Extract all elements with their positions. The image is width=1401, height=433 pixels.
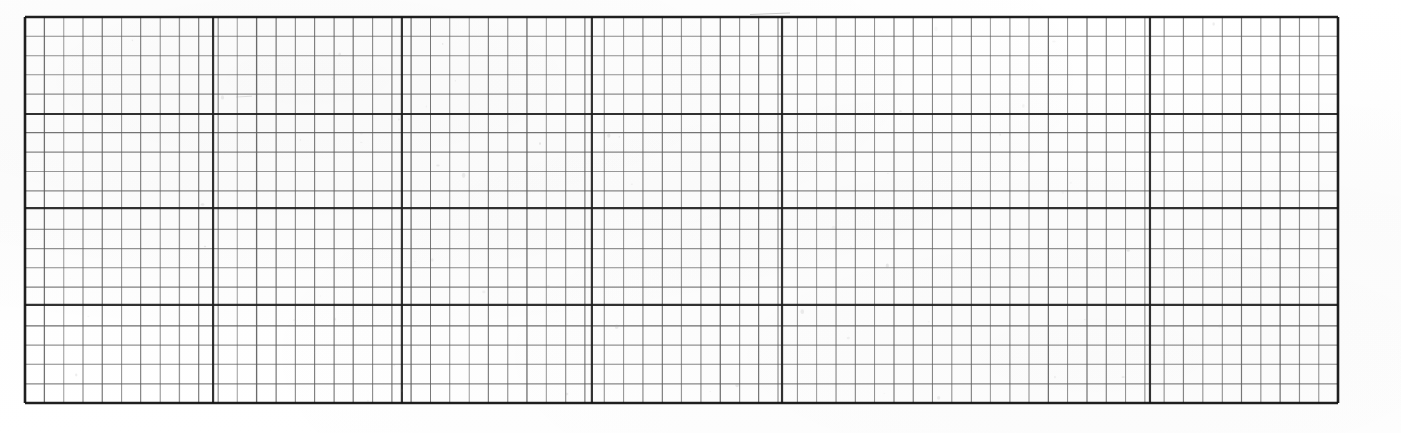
scan-speckle — [539, 142, 541, 145]
scan-speckle — [414, 261, 415, 262]
scan-speckle — [204, 246, 206, 248]
scan-speckle — [1128, 77, 1130, 79]
scan-speckle — [332, 77, 333, 79]
scan-speckle — [735, 383, 738, 387]
scan-speckle — [338, 53, 341, 56]
scan-speckle — [398, 118, 400, 120]
scan-speckle — [360, 132, 363, 135]
scan-speckle — [547, 285, 550, 287]
scan-speckle — [662, 18, 664, 19]
scan-speckle — [1022, 104, 1025, 108]
scan-artifact-stroke — [750, 13, 790, 15]
scan-speckle — [615, 324, 619, 329]
scan-speckle — [462, 173, 466, 178]
scan-speckle — [832, 226, 836, 229]
scan-speckle — [434, 68, 435, 69]
scan-speckle — [367, 400, 369, 402]
scan-speckle — [87, 316, 89, 317]
scan-speckle — [1212, 22, 1215, 25]
scan-speckle — [320, 295, 321, 296]
scan-speckle — [1062, 191, 1064, 194]
scan-speckle — [1218, 324, 1222, 328]
scan-speckle — [710, 391, 711, 392]
scan-speckle — [884, 393, 885, 394]
scan-speckle — [394, 365, 395, 367]
scan-speckle — [1122, 376, 1125, 378]
scan-speckle — [360, 142, 362, 143]
scan-speckle — [565, 393, 568, 396]
scan-speckle — [800, 309, 804, 314]
scan-speckle — [314, 352, 315, 354]
scan-speckle — [887, 173, 888, 174]
scan-speckle — [418, 347, 419, 348]
scan-speckle — [1052, 41, 1056, 43]
scan-speckle — [956, 54, 957, 55]
scan-speckle — [482, 291, 485, 294]
scan-speckle — [619, 136, 620, 138]
scan-speckle — [400, 389, 403, 392]
scan-speckle — [791, 232, 792, 233]
scan-speckle — [928, 321, 930, 322]
scan-speckle — [849, 60, 850, 61]
scan-speckle — [934, 27, 937, 31]
scan-speckle — [850, 246, 851, 248]
scan-speckle — [201, 203, 205, 205]
scan-speckle — [847, 337, 850, 339]
scan-speckle — [631, 184, 633, 185]
scan-speckle — [442, 43, 443, 45]
scan-speckle — [899, 110, 902, 112]
scan-artifact-stroke — [236, 96, 252, 97]
scan-speckle — [334, 318, 336, 321]
scan-speckle — [446, 33, 447, 34]
grid-svg — [0, 0, 1401, 433]
scan-speckle — [1266, 247, 1269, 251]
scan-speckle — [70, 278, 71, 279]
scan-speckle — [937, 396, 940, 400]
scan-speckle — [293, 319, 297, 321]
scan-speckle — [300, 139, 301, 141]
scan-speckle — [1127, 249, 1130, 252]
scan-speckle — [436, 165, 440, 167]
scan-speckle — [455, 80, 456, 81]
scan-speckle — [426, 106, 427, 108]
scan-speckle — [431, 258, 434, 262]
scan-speckle — [132, 39, 133, 41]
scan-speckle — [685, 304, 686, 305]
scan-speckle — [607, 134, 610, 138]
scan-speckle — [1084, 319, 1085, 320]
scan-speckle — [583, 286, 585, 288]
scan-speckle — [221, 95, 224, 99]
scan-speckle — [1054, 376, 1056, 379]
scan-speckle — [1070, 182, 1073, 184]
page-root — [0, 0, 1401, 433]
scan-speckle — [75, 374, 77, 377]
scan-speckle — [886, 264, 889, 269]
scan-speckle — [999, 134, 1001, 136]
